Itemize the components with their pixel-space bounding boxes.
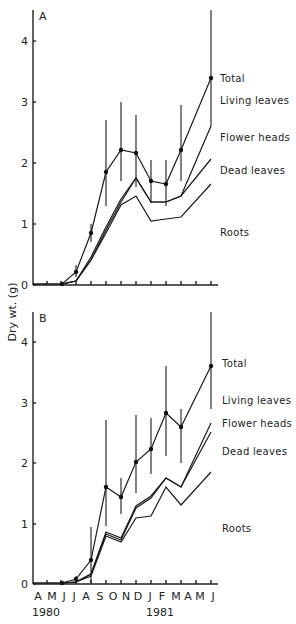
panel-a: A 0 1 2 3 4 (21, 10, 290, 292)
svg-text:N: N (122, 590, 130, 603)
panel-b-label-flower-heads: Flower heads (222, 418, 292, 429)
panel-a-y-ticks: 0 1 2 3 4 (21, 35, 36, 292)
svg-text:J: J (71, 590, 75, 603)
svg-text:2: 2 (21, 457, 28, 470)
svg-text:4: 4 (21, 35, 28, 48)
svg-text:1: 1 (21, 518, 28, 531)
panel-b-total-line (33, 366, 211, 583)
panel-a-label: A (39, 10, 47, 23)
svg-text:1: 1 (21, 218, 28, 231)
panel-a-label-flower-heads: Flower heads (220, 132, 290, 143)
svg-text:M: M (171, 590, 181, 603)
panel-b-error-bars (76, 312, 211, 583)
panel-b-label-dead-leaves: Dead leaves (222, 446, 287, 457)
panel-b-living-leaves-line (33, 423, 211, 583)
y-axis-label: Dry wt. (g) (6, 283, 19, 342)
panel-b-label-living-leaves: Living leaves (222, 395, 291, 406)
svg-text:S: S (97, 590, 104, 603)
panel-a-label-total: Total (219, 73, 245, 84)
svg-text:A: A (82, 590, 90, 603)
svg-text:J: J (147, 590, 151, 603)
svg-text:O: O (109, 590, 118, 603)
svg-text:M: M (47, 590, 57, 603)
svg-text:F: F (159, 590, 165, 603)
svg-text:3: 3 (21, 397, 28, 410)
svg-text:M: M (195, 590, 205, 603)
panel-b-month-labels: A M J J A S O N D J F M A M J 1980 1981 (32, 590, 215, 619)
svg-text:0: 0 (21, 279, 28, 292)
panel-b-label-total: Total (221, 358, 247, 369)
svg-text:A: A (34, 590, 42, 603)
figure: Dry wt. (g) A 0 1 2 3 4 (0, 0, 296, 624)
panel-b: B 0 1 2 3 4 A (21, 312, 292, 619)
svg-text:J: J (61, 590, 65, 603)
panel-b-label-roots: Roots (222, 523, 251, 534)
panel-a-total-line (33, 78, 211, 284)
panel-a-label-living-leaves: Living leaves (220, 95, 289, 106)
year-1981: 1981 (146, 606, 174, 619)
svg-text:A: A (184, 590, 192, 603)
svg-text:4: 4 (21, 336, 28, 349)
svg-text:J: J (210, 590, 214, 603)
svg-text:3: 3 (21, 96, 28, 109)
panel-a-label-roots: Roots (220, 227, 249, 238)
svg-text:0: 0 (21, 578, 28, 591)
panel-b-y-ticks: 0 1 2 3 4 (21, 336, 36, 591)
svg-text:2: 2 (21, 157, 28, 170)
panel-a-error-bars (76, 10, 211, 277)
panel-a-dead-leaves-line (62, 184, 211, 284)
panel-b-label: B (39, 312, 47, 325)
panel-a-label-dead-leaves: Dead leaves (220, 165, 285, 176)
svg-text:D: D (134, 590, 142, 603)
year-1980: 1980 (32, 606, 60, 619)
